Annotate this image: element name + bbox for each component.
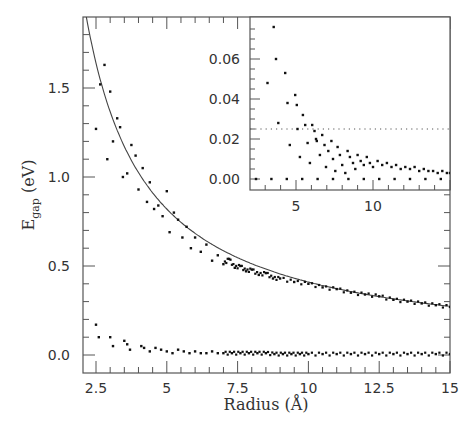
data-point <box>103 64 105 66</box>
inset-data-point <box>334 170 336 172</box>
inset-data-point <box>284 72 286 74</box>
x-tick-label: 7.5 <box>226 380 248 396</box>
data-point <box>368 352 370 354</box>
inset-data-point <box>304 124 306 126</box>
inset-data-point <box>423 168 425 170</box>
inset-x-tick-labels: 510 <box>292 198 382 214</box>
data-point <box>252 268 254 270</box>
data-point <box>414 303 416 305</box>
data-point <box>246 268 248 270</box>
data-point <box>123 340 125 342</box>
data-point <box>297 352 299 354</box>
data-point <box>278 354 280 356</box>
inset-data-point <box>437 172 439 174</box>
data-point <box>254 351 256 353</box>
inset-data-point <box>319 154 321 156</box>
data-point <box>403 299 405 301</box>
data-point <box>371 354 373 356</box>
data-point <box>119 126 121 128</box>
data-point <box>217 352 219 354</box>
data-point <box>417 352 419 354</box>
inset-data-point <box>321 134 323 136</box>
data-point <box>406 353 408 355</box>
data-point <box>98 336 100 338</box>
data-point <box>332 286 334 288</box>
data-point <box>435 304 437 306</box>
data-point <box>300 283 302 285</box>
inset-data-point <box>449 172 451 174</box>
inset-data-point <box>296 128 298 130</box>
data-point <box>417 300 419 302</box>
data-point <box>238 264 240 266</box>
data-point <box>318 352 320 354</box>
data-point <box>282 353 284 355</box>
data-point <box>263 271 265 273</box>
data-point <box>346 289 348 291</box>
data-point <box>183 350 185 352</box>
data-point <box>305 352 307 354</box>
data-point <box>346 352 348 354</box>
inset-data-point <box>344 172 346 174</box>
data-point <box>350 292 352 294</box>
data-point <box>205 352 207 354</box>
inset-data-point <box>354 168 356 170</box>
data-point <box>424 301 426 303</box>
data-point <box>449 353 451 355</box>
inset-data-point <box>446 172 448 174</box>
inset-data-point <box>376 160 378 162</box>
inset-data-point <box>289 144 291 146</box>
inset-data-point <box>372 166 374 168</box>
data-point <box>292 352 294 354</box>
data-point <box>112 140 114 142</box>
data-point <box>261 274 263 276</box>
inset-y-tick-label: 0.00 <box>209 171 240 187</box>
inset-background <box>250 17 450 190</box>
data-point <box>445 304 447 306</box>
data-point <box>161 215 163 217</box>
x-tick-label: 12.5 <box>364 380 395 396</box>
data-point <box>231 352 233 354</box>
data-point <box>232 263 234 265</box>
inset-data-point <box>316 140 318 142</box>
y-tick-label: 1.5 <box>48 80 70 96</box>
inset-data-point <box>386 162 388 164</box>
data-point <box>389 352 391 354</box>
inset-data-point <box>336 146 338 148</box>
data-point <box>265 352 267 354</box>
data-point <box>283 277 285 279</box>
data-point <box>225 262 227 264</box>
inset-data-point <box>339 154 341 156</box>
data-point <box>95 128 97 130</box>
y-tick-label: 1.0 <box>48 169 70 185</box>
x-axis-title: Radius (Å) <box>224 394 309 414</box>
data-point <box>399 301 401 303</box>
data-point <box>438 352 440 354</box>
data-point <box>166 190 168 192</box>
inset-data-point <box>413 166 415 168</box>
inset-data-point <box>270 178 272 180</box>
data-point <box>112 345 114 347</box>
inset-data-point <box>352 162 354 164</box>
data-point <box>290 353 292 355</box>
data-point <box>442 306 444 308</box>
data-point <box>314 354 316 356</box>
data-point <box>229 259 231 261</box>
data-point <box>239 352 241 354</box>
data-point <box>329 354 331 356</box>
inset-data-point <box>418 170 420 172</box>
x-tick-label: 5 <box>162 380 171 396</box>
x-tick-label: 10 <box>299 380 317 396</box>
data-point <box>269 354 271 356</box>
data-point <box>297 280 299 282</box>
data-point <box>332 352 334 354</box>
data-point <box>126 343 128 345</box>
data-point <box>146 201 148 203</box>
y-tick-label: 0.0 <box>48 347 70 363</box>
data-point <box>280 352 282 354</box>
inset-data-point <box>360 160 362 162</box>
chart: 2.557.51012.515 0.00.51.01.5 510 0.000.0… <box>0 0 468 427</box>
data-point <box>248 271 250 273</box>
data-point <box>339 288 341 290</box>
data-point <box>428 305 430 307</box>
data-point <box>378 295 380 297</box>
